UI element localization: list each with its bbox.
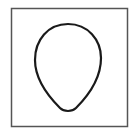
figure-svg xyxy=(0,0,131,133)
figure-canvas xyxy=(0,0,131,133)
square-frame xyxy=(12,9,128,127)
